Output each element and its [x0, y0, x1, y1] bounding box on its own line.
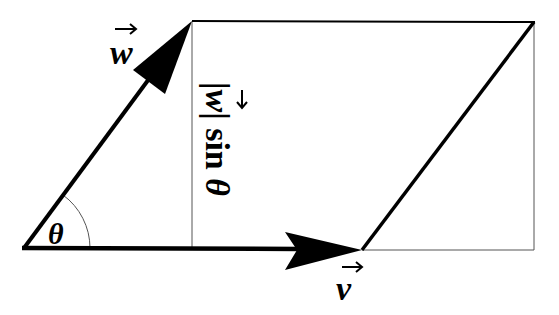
vector-w-label: w: [110, 34, 133, 71]
height-w-arrow-icon: [237, 90, 247, 108]
right-edge: [362, 22, 534, 250]
vector-w-shaft: [24, 64, 160, 248]
vector-v-label: v: [336, 270, 352, 307]
angle-arc: [63, 195, 90, 248]
abs-close-sin: | sin: [199, 112, 236, 178]
angle-theta-label: θ: [48, 217, 64, 250]
vector-v-shaft: [22, 248, 300, 249]
height-w: w: [199, 90, 236, 113]
svg-text:|w| sin θ: |w| sin θ: [199, 82, 236, 196]
height-theta: θ: [199, 178, 236, 196]
height-label: |w| sin θ: [199, 82, 247, 196]
abs-open: |: [199, 82, 236, 90]
vector-w-arrowhead: [133, 21, 192, 94]
parallelogram-diagram: w v θ |w| sin θ: [0, 0, 559, 315]
top-edge: [192, 21, 535, 22]
vector-v-arrowhead: [285, 232, 362, 270]
vector-w-arrow-icon: [115, 24, 136, 34]
